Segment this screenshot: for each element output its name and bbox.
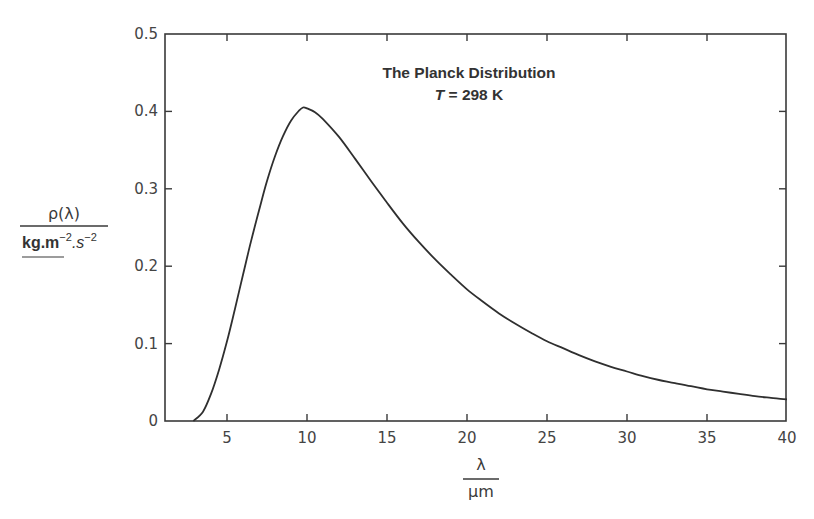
y-tick-label: 0.5 — [134, 25, 158, 43]
x-tick-label: 35 — [697, 429, 716, 447]
x-tick-label: 20 — [457, 429, 476, 447]
x-tick-label: 5 — [222, 429, 232, 447]
y-axis-label-units: kg.m−2.s−2 — [22, 231, 97, 251]
temperature-value: = 298 K — [444, 86, 504, 103]
x-axis-label-units: μm — [468, 482, 494, 501]
y-tick-label: 0.4 — [134, 102, 158, 120]
x-tick-label: 30 — [617, 429, 636, 447]
y-tick-label: 0.2 — [134, 257, 158, 275]
y-tick-label: 0 — [148, 412, 158, 430]
x-tick-label: 25 — [537, 429, 556, 447]
x-tick-label: 10 — [297, 429, 316, 447]
chart-title-block: The Planck Distribution T = 298 K — [382, 64, 555, 103]
x-tick-label: 15 — [377, 429, 396, 447]
x-axis-label-numerator: λ — [476, 455, 485, 474]
x-axis-label: λ μm — [463, 455, 499, 501]
y-axis-label: ρ(λ) kg.m−2.s−2 — [20, 204, 108, 257]
planck-chart: 510152025303540 00.10.20.30.40.5 The Pla… — [0, 0, 814, 519]
y-axis-label-numerator: ρ(λ) — [48, 204, 80, 223]
chart-subtitle: T = 298 K — [435, 86, 504, 103]
x-tick-label: 40 — [777, 429, 796, 447]
y-tick-label: 0.3 — [134, 180, 158, 198]
y-tick-label: 0.1 — [134, 335, 158, 353]
planck-curve — [193, 107, 787, 421]
chart-title: The Planck Distribution — [382, 64, 555, 81]
x-axis-ticks: 510152025303540 — [222, 34, 796, 447]
